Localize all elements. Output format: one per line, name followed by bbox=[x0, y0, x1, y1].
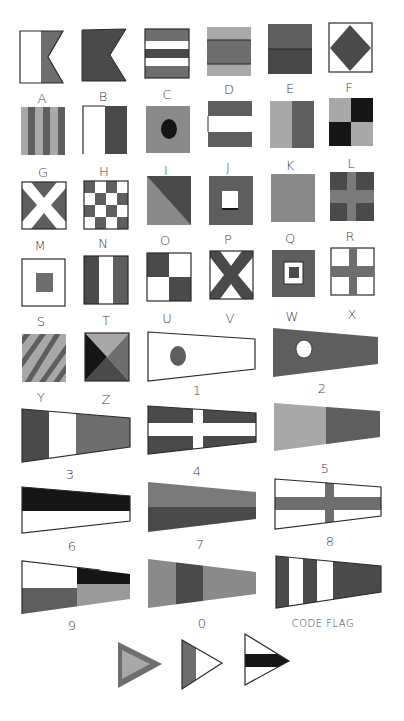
label-f: F bbox=[345, 80, 352, 95]
flag-t bbox=[85, 333, 131, 383]
flag-h bbox=[83, 106, 129, 156]
flag-k bbox=[270, 101, 316, 151]
label-3: 3 bbox=[66, 467, 74, 482]
pennant-3 bbox=[22, 409, 134, 465]
pennant-5 bbox=[274, 403, 386, 455]
flag-m bbox=[22, 182, 68, 232]
label-1: 1 bbox=[193, 383, 201, 398]
label-z: Z bbox=[102, 392, 111, 407]
flag-q bbox=[271, 174, 317, 226]
flag-s bbox=[22, 334, 68, 384]
label-6: 6 bbox=[68, 539, 76, 554]
flag-n-2 bbox=[84, 256, 130, 306]
label-7: 7 bbox=[196, 537, 204, 552]
substitute-3 bbox=[245, 634, 293, 688]
flag-g bbox=[21, 107, 67, 157]
flag-m-2 bbox=[22, 259, 68, 309]
label-code-flag: CODE FLAG bbox=[292, 618, 355, 629]
label-8: 8 bbox=[326, 534, 334, 549]
flag-i bbox=[146, 106, 192, 156]
label-u: U bbox=[162, 311, 172, 326]
flag-f bbox=[329, 23, 375, 75]
label-r: R bbox=[345, 229, 354, 244]
flag-l bbox=[329, 98, 375, 148]
label-0: 0 bbox=[198, 616, 206, 631]
label-n: N bbox=[98, 236, 108, 251]
substitute-1 bbox=[118, 642, 166, 692]
pennant-u bbox=[148, 332, 258, 384]
label-t: T bbox=[102, 313, 110, 328]
label-v: V bbox=[226, 311, 235, 326]
pennant-0 bbox=[148, 559, 260, 611]
label-o: O bbox=[160, 233, 170, 248]
label-s: S bbox=[37, 314, 45, 329]
pennant-7 bbox=[148, 482, 260, 538]
pennant-9 bbox=[22, 561, 134, 617]
label-x: X bbox=[348, 307, 357, 322]
label-g: G bbox=[38, 165, 48, 180]
label-y: Y bbox=[37, 390, 45, 405]
flag-d bbox=[207, 27, 253, 77]
flag-a bbox=[20, 31, 65, 84]
pennant-4 bbox=[148, 406, 260, 458]
pennant-8 bbox=[275, 479, 387, 535]
label-h: H bbox=[99, 164, 109, 179]
flag-p-2 bbox=[210, 251, 256, 303]
label-b: B bbox=[99, 89, 108, 104]
flag-n bbox=[84, 181, 130, 231]
substitute-2 bbox=[182, 640, 226, 692]
pennant-6 bbox=[22, 487, 134, 543]
flag-o bbox=[147, 176, 193, 228]
flag-o-2 bbox=[147, 253, 193, 305]
label-2: 2 bbox=[318, 381, 326, 396]
flag-b bbox=[82, 29, 127, 83]
label-c: C bbox=[162, 87, 171, 102]
label-a: A bbox=[38, 91, 47, 106]
flag-c bbox=[145, 29, 191, 81]
label-w: W bbox=[286, 309, 299, 324]
label-d: D bbox=[224, 82, 234, 97]
label-l: L bbox=[347, 156, 354, 171]
flag-q-2 bbox=[272, 250, 318, 302]
flag-r-2 bbox=[331, 248, 377, 300]
label-e: E bbox=[286, 81, 294, 96]
label-q: Q bbox=[285, 231, 295, 246]
label-5: 5 bbox=[321, 461, 329, 476]
label-p: P bbox=[224, 232, 232, 247]
flag-j bbox=[208, 101, 254, 151]
label-4: 4 bbox=[193, 464, 201, 479]
pennant-code bbox=[276, 556, 388, 612]
label-k: K bbox=[286, 158, 295, 173]
label-m: M bbox=[34, 238, 45, 253]
label-j: J bbox=[226, 160, 230, 175]
pennant-w bbox=[273, 328, 383, 380]
flag-p bbox=[209, 176, 255, 228]
flag-e bbox=[268, 24, 314, 76]
flag-r bbox=[330, 172, 376, 224]
label-9: 9 bbox=[68, 618, 76, 633]
